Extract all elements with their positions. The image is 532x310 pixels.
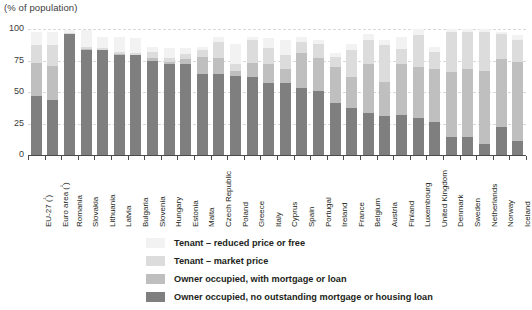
y-tick-label-50: 50 xyxy=(2,86,24,96)
legend-item-tenant_market[interactable]: Tenant – market price xyxy=(146,252,526,270)
bar-10[interactable] xyxy=(197,47,208,155)
y-tick-label-75: 75 xyxy=(2,55,24,65)
bar-13[interactable] xyxy=(247,37,258,155)
bar-segment-0 xyxy=(147,61,158,156)
bar-segment-0 xyxy=(429,122,440,155)
bar-2[interactable] xyxy=(64,30,75,155)
bar-segment-1 xyxy=(413,67,424,119)
x-axis-label-11: Czech Republic xyxy=(223,171,234,227)
x-axis-label-23: Luxembourg xyxy=(422,183,433,227)
bar-segment-0 xyxy=(130,55,141,155)
bar-22[interactable] xyxy=(396,37,407,155)
legend-item-owner_no_mortgage[interactable]: Owner occupied, no outstanding mortgage … xyxy=(146,288,526,306)
bar-segment-0 xyxy=(413,118,424,155)
x-axis-label-3: Slovakia xyxy=(90,197,101,227)
bar-27[interactable] xyxy=(479,29,490,155)
bar-25[interactable] xyxy=(446,29,457,155)
x-axis-label-0: EU-27 (²) xyxy=(40,195,54,227)
bar-segment-0 xyxy=(81,50,92,155)
bar-29[interactable] xyxy=(512,35,523,155)
bar-24[interactable] xyxy=(429,47,440,155)
bar-segment-1 xyxy=(47,66,58,100)
bar-segment-2 xyxy=(446,32,457,72)
bar-28[interactable] xyxy=(496,32,507,155)
bar-6[interactable] xyxy=(130,38,141,155)
y-tick-label-100: 100 xyxy=(2,23,24,33)
bar-segment-1 xyxy=(446,72,457,138)
bar-segment-0 xyxy=(31,96,42,155)
x-axis-label-14: Italy xyxy=(273,212,284,227)
bar-segment-3 xyxy=(280,40,291,55)
x-axis-label-27: Netherlands xyxy=(489,184,500,227)
x-axis-label-12: Poland xyxy=(240,202,251,227)
bar-segment-1 xyxy=(363,64,374,113)
bar-segment-2 xyxy=(313,44,324,58)
bar-17[interactable] xyxy=(313,40,324,155)
legend-swatch-tenant_reduced_or_free xyxy=(146,238,165,248)
bar-segment-2 xyxy=(330,57,341,67)
bar-5[interactable] xyxy=(114,37,125,155)
bar-segment-1 xyxy=(280,69,291,83)
x-axis-label-17: Portugal xyxy=(323,197,334,227)
bar-segment-0 xyxy=(363,113,374,155)
bar-14[interactable] xyxy=(263,38,274,155)
bar-segment-2 xyxy=(496,34,507,59)
bar-segment-1 xyxy=(429,69,440,122)
legend-label-owner_no_mortgage: Owner occupied, no outstanding mortgage … xyxy=(174,292,433,302)
bar-7[interactable] xyxy=(147,47,158,155)
bar-segment-2 xyxy=(413,35,424,67)
bar-segment-2 xyxy=(247,40,258,63)
x-axis-label-16: Spain xyxy=(306,207,317,227)
bar-15[interactable] xyxy=(280,40,291,155)
x-axis-label-15: Cyprus xyxy=(289,202,300,227)
bar-18[interactable] xyxy=(330,53,341,155)
bar-segment-0 xyxy=(47,100,58,155)
x-axis-label-1: Euro area (²) xyxy=(57,182,71,227)
legend-item-tenant_reduced_or_free[interactable]: Tenant – reduced price or free xyxy=(146,234,526,252)
bar-1[interactable] xyxy=(47,32,58,155)
bar-segment-1 xyxy=(247,63,258,77)
bar-26[interactable] xyxy=(462,29,473,155)
bar-4[interactable] xyxy=(97,37,108,155)
x-axis-labels: EU-27 (²)Euro area (²)RomaniaSlovakiaLit… xyxy=(28,159,526,229)
bar-segment-0 xyxy=(396,115,407,155)
bar-16[interactable] xyxy=(296,37,307,155)
legend-label-tenant_market: Tenant – market price xyxy=(174,256,268,266)
bar-11[interactable] xyxy=(213,37,224,155)
chart-axis-title: (% of population) xyxy=(4,2,78,13)
bar-segment-2 xyxy=(263,48,274,64)
chart-legend: Tenant – reduced price or freeTenant – m… xyxy=(146,234,526,306)
bar-segment-2 xyxy=(396,49,407,64)
legend-item-owner_mortgage[interactable]: Owner occupied, with mortgage or loan xyxy=(146,270,526,288)
bar-0[interactable] xyxy=(31,32,42,155)
bar-segment-3 xyxy=(31,32,42,46)
bar-segment-2 xyxy=(296,42,307,53)
bar-9[interactable] xyxy=(180,48,191,155)
bar-segment-0 xyxy=(512,141,523,155)
bar-segment-0 xyxy=(164,64,175,155)
x-axis-label-10: Malta xyxy=(206,207,217,227)
bar-23[interactable] xyxy=(413,29,424,155)
bar-21[interactable] xyxy=(379,40,390,155)
bar-12[interactable] xyxy=(230,44,241,155)
x-axis-label-24: United Kingdom xyxy=(439,170,450,227)
bar-segment-1 xyxy=(346,77,357,109)
bar-segment-3 xyxy=(164,48,175,58)
bar-segment-3 xyxy=(81,30,92,46)
bar-8[interactable] xyxy=(164,48,175,155)
bar-19[interactable] xyxy=(346,44,357,155)
bar-segment-2 xyxy=(462,32,473,70)
bar-segment-1 xyxy=(496,59,507,127)
bar-3[interactable] xyxy=(81,30,92,155)
x-axis-label-2: Romania xyxy=(74,195,85,227)
bar-segment-0 xyxy=(280,83,291,155)
x-axis-label-21: Austria xyxy=(389,202,400,227)
bar-segment-3 xyxy=(47,32,58,46)
bar-20[interactable] xyxy=(363,34,374,155)
bar-segment-1 xyxy=(479,71,490,144)
bar-segment-0 xyxy=(446,137,457,155)
x-axis-label-28: Norway xyxy=(505,200,516,227)
bar-segment-0 xyxy=(496,127,507,155)
y-tick-label-0: 0 xyxy=(2,149,24,159)
bar-segment-3 xyxy=(263,38,274,48)
